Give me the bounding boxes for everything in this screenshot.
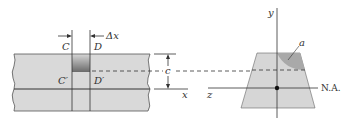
label-z-axis: z — [206, 89, 213, 100]
cross-section: y z a N.A. — [206, 7, 341, 118]
label-c: C — [62, 41, 70, 52]
centroid-dot — [275, 86, 279, 90]
dimension-c: c — [154, 54, 188, 89]
label-y-axis: y — [267, 7, 274, 18]
label-x-axis: x — [182, 89, 188, 100]
label-area-a: a — [299, 37, 305, 48]
label-c-prime: C′ — [58, 75, 69, 86]
label-neutral-axis: N.A. — [321, 83, 341, 93]
label-delta-x: Δx — [105, 30, 119, 41]
arrowhead-icon — [67, 34, 72, 38]
label-c-dimension: c — [165, 65, 171, 76]
stress-element-block — [72, 55, 90, 72]
label-d-prime: D′ — [93, 75, 105, 86]
diagram-canvas: Δx C D C′ D′ c x y z a N.A. — [0, 0, 357, 122]
arrowhead-icon — [166, 54, 170, 59]
beam: Δx C D C′ D′ — [12, 30, 150, 111]
arrowhead-icon — [166, 84, 170, 89]
arrowhead-icon — [90, 34, 95, 38]
label-d: D — [93, 41, 102, 52]
trapezoid-section — [241, 53, 315, 108]
